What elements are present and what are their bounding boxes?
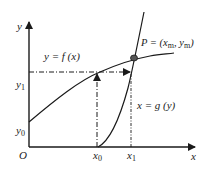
x-axis-label: x [191, 151, 196, 162]
curve-f [29, 53, 174, 122]
x1-label: x1 [127, 150, 136, 163]
point-label: P = (xm, ym) [141, 38, 194, 50]
intersection-point [131, 55, 138, 61]
x0-label: x0 [93, 150, 102, 163]
curve-g-label: x = g (y) [137, 100, 175, 111]
y0-label: y0 [16, 125, 25, 138]
y1-label: y1 [16, 79, 25, 92]
diagram-canvas [0, 0, 207, 174]
curve-f-label: y = f (x) [44, 51, 80, 62]
curve-g [98, 12, 144, 147]
origin-label: O [19, 150, 27, 161]
y-axis-label: y [17, 21, 22, 32]
